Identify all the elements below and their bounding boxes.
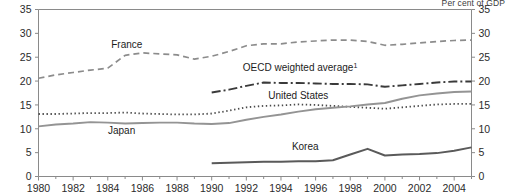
chart-series-labels: FranceOECD weighted average1United State… bbox=[108, 39, 357, 152]
chart-series-lines bbox=[39, 40, 472, 163]
y-tick-label-left: 30 bbox=[20, 27, 32, 39]
line-chart-plot: 0055101015152020252530303535198019821984… bbox=[0, 0, 509, 193]
x-tick-label: 1994 bbox=[269, 182, 293, 194]
y-tick-label-right: 10 bbox=[479, 123, 491, 135]
y-tick-label-left: 35 bbox=[20, 3, 32, 15]
x-tick-label: 1996 bbox=[304, 182, 328, 194]
y-tick-label-left: 5 bbox=[26, 146, 32, 158]
y-tick-label-right: 20 bbox=[479, 75, 491, 87]
chart-container: Per cent of GDP 005510101515202025253030… bbox=[0, 0, 509, 193]
y-tick-label-left: 20 bbox=[20, 75, 32, 87]
series-label-korea: Korea bbox=[292, 141, 319, 152]
y-tick-label-right: 35 bbox=[479, 3, 491, 15]
series-label-france: France bbox=[111, 39, 143, 50]
series-label-oecd-weighted-average: OECD weighted average1 bbox=[243, 62, 358, 73]
x-tick-label: 1980 bbox=[27, 182, 51, 194]
series-line-korea bbox=[212, 147, 472, 163]
y-tick-label-right: 30 bbox=[479, 27, 491, 39]
footnote-superscript: 1 bbox=[353, 62, 357, 69]
series-label-japan: Japan bbox=[108, 125, 135, 136]
y-tick-label-right: 5 bbox=[479, 146, 485, 158]
x-tick-label: 1998 bbox=[339, 182, 363, 194]
y-tick-label-right: 0 bbox=[479, 170, 485, 182]
y-tick-label-left: 0 bbox=[26, 170, 32, 182]
series-line-united-states bbox=[39, 104, 472, 115]
x-tick-label: 1988 bbox=[165, 182, 189, 194]
x-tick-label: 2004 bbox=[443, 182, 467, 194]
y-tick-label-right: 25 bbox=[479, 51, 491, 63]
series-line-oecd-weighted-average bbox=[212, 82, 472, 93]
series-label-united-states: United States bbox=[268, 90, 328, 101]
chart-tick-labels: 0055101015152020252530303535198019821984… bbox=[20, 3, 491, 193]
x-tick-label: 1986 bbox=[131, 182, 155, 194]
y-tick-label-left: 10 bbox=[20, 123, 32, 135]
x-tick-label: 1982 bbox=[61, 182, 85, 194]
x-tick-label: 1984 bbox=[96, 182, 120, 194]
y-tick-label-right: 15 bbox=[479, 99, 491, 111]
x-tick-label: 1992 bbox=[235, 182, 259, 194]
y-tick-label-left: 15 bbox=[20, 99, 32, 111]
x-tick-label: 1990 bbox=[200, 182, 224, 194]
x-tick-label: 2002 bbox=[408, 182, 432, 194]
x-tick-label: 2000 bbox=[373, 182, 397, 194]
series-line-japan bbox=[39, 92, 472, 127]
y-tick-label-left: 25 bbox=[20, 51, 32, 63]
